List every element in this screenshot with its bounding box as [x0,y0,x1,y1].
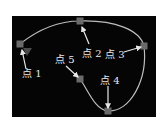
point-label: 点 1 [22,68,42,79]
control-point-p3 [141,43,148,50]
point-label: 点 2 [82,48,102,59]
control-point-p4 [105,108,112,115]
curve-diagram: 点 1点 2点 3点 4点 5 [0,0,166,124]
point-label: 点 5 [55,54,75,65]
control-point-p2 [77,18,84,25]
control-point-p1 [17,41,24,48]
point-label: 点 3 [105,49,125,60]
point-label: 点 4 [100,75,120,86]
